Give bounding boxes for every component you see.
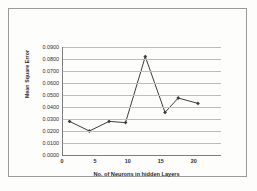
x-tick-label: 10 xyxy=(125,158,131,164)
x-tick-label: 20 xyxy=(191,158,197,164)
y-tick-label: 0.0500 xyxy=(27,92,59,98)
gridline xyxy=(63,95,221,96)
y-tick-label: 0.0600 xyxy=(27,80,59,86)
y-tick-label: 0.0100 xyxy=(27,140,59,146)
data-point-marker xyxy=(68,120,72,124)
y-tick-label: 0.0900 xyxy=(27,44,59,50)
chart-figure: Mean Square Error 0.00000.01000.02000.03… xyxy=(0,0,257,191)
plot-area xyxy=(62,47,221,156)
y-tick-label: 0.0000 xyxy=(27,152,59,158)
data-point-marker xyxy=(107,120,111,124)
y-tick-label: 0.0200 xyxy=(27,128,59,134)
data-series xyxy=(63,47,221,155)
x-tick-label: 15 xyxy=(158,158,164,164)
data-point-marker xyxy=(124,121,128,125)
x-tick-label: 5 xyxy=(93,158,96,164)
chart-frame: Mean Square Error 0.00000.01000.02000.03… xyxy=(8,8,247,177)
y-tick-label: 0.0400 xyxy=(27,104,59,110)
gridline xyxy=(63,107,221,108)
x-axis-title: No. of Neurons in hidden Layers xyxy=(17,171,256,177)
gridline xyxy=(63,47,221,48)
gridline xyxy=(63,119,221,120)
y-axis-tick-labels: 0.00000.01000.02000.03000.04000.05000.06… xyxy=(27,42,59,155)
gridline xyxy=(63,83,221,84)
gridline xyxy=(63,143,221,144)
y-tick-label: 0.0800 xyxy=(27,56,59,62)
y-tick-label: 0.0300 xyxy=(27,116,59,122)
data-point-marker xyxy=(143,55,147,59)
gridline xyxy=(63,59,221,60)
gridline xyxy=(63,131,221,132)
gridline xyxy=(63,71,221,72)
y-tick-label: 0.0700 xyxy=(27,68,59,74)
x-tick-label: 0 xyxy=(61,158,64,164)
data-point-marker xyxy=(196,102,200,106)
x-axis-tick-labels: 05101520 xyxy=(62,158,220,168)
